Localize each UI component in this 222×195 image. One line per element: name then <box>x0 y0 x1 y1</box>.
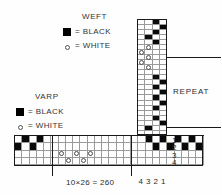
grid-cell[interactable] <box>73 136 80 143</box>
grid-cell[interactable] <box>153 158 160 165</box>
grid-cell[interactable] <box>102 143 109 150</box>
grid-cell[interactable] <box>22 158 29 165</box>
grid-cell[interactable] <box>124 143 131 150</box>
grid-cell[interactable] <box>59 136 66 143</box>
grid-cell[interactable] <box>22 136 29 143</box>
grid-cell[interactable] <box>88 143 95 150</box>
grid-cell[interactable] <box>22 143 29 150</box>
grid-cell[interactable] <box>153 143 160 150</box>
grid-cell[interactable] <box>160 143 167 150</box>
warp-legend-black-label: = BLACK <box>28 107 64 116</box>
grid-cell[interactable] <box>146 158 153 165</box>
grid-cell[interactable] <box>73 151 80 158</box>
grid-cell[interactable] <box>66 151 73 158</box>
grid-cell[interactable] <box>117 136 124 143</box>
grid-cell[interactable] <box>15 136 22 143</box>
grid-cell[interactable] <box>153 136 160 143</box>
weaving-draft-diagram: WEFT = BLACK = WHITE VARP = BLACK = WHIT… <box>0 0 222 195</box>
grid-cell[interactable] <box>66 143 73 150</box>
grid-cell[interactable] <box>146 151 153 158</box>
grid-cell[interactable] <box>44 136 51 143</box>
grid-cell[interactable] <box>153 151 160 158</box>
grid-cell[interactable] <box>88 151 95 158</box>
grid-cell[interactable] <box>95 151 102 158</box>
grid-cell[interactable] <box>102 151 109 158</box>
grid-cell[interactable] <box>59 143 66 150</box>
grid-cell[interactable] <box>117 151 124 158</box>
grid-cell[interactable] <box>59 151 66 158</box>
grid-cell[interactable] <box>80 151 87 158</box>
grid-cell[interactable] <box>80 136 87 143</box>
grid-cell[interactable] <box>109 151 116 158</box>
grid-cell[interactable] <box>66 158 73 165</box>
grid-cell[interactable] <box>124 136 131 143</box>
grid-cell[interactable] <box>30 158 37 165</box>
weft-legend-row-white: = WHITE <box>63 41 110 50</box>
treadling-grid[interactable] <box>137 19 167 136</box>
grid-cell[interactable] <box>189 136 196 143</box>
grid-cell[interactable] <box>44 143 51 150</box>
grid-cell[interactable] <box>109 143 116 150</box>
grid-cell[interactable] <box>131 136 138 143</box>
grid-cell[interactable] <box>138 158 145 165</box>
grid-cell[interactable] <box>30 136 37 143</box>
grid-cell[interactable] <box>22 151 29 158</box>
grid-cell[interactable] <box>80 158 87 165</box>
grid-cell[interactable] <box>15 158 22 165</box>
grid-cell[interactable] <box>59 158 66 165</box>
grid-cell[interactable] <box>160 136 167 143</box>
grid-cell[interactable] <box>138 143 145 150</box>
grid-cell[interactable] <box>80 143 87 150</box>
grid-cell[interactable] <box>117 143 124 150</box>
grid-cell[interactable] <box>146 136 153 143</box>
grid-cell[interactable] <box>196 151 203 158</box>
treadle-number: 2 <box>152 177 160 186</box>
grid-cell[interactable] <box>182 143 189 150</box>
white-circle-icon <box>63 42 71 50</box>
grid-cell[interactable] <box>131 158 138 165</box>
grid-cell[interactable] <box>66 136 73 143</box>
grid-cell[interactable] <box>124 158 131 165</box>
grid-cell[interactable] <box>138 151 145 158</box>
grid-cell[interactable] <box>37 143 44 150</box>
grid-cell[interactable] <box>37 158 44 165</box>
grid-cell[interactable] <box>189 143 196 150</box>
grid-cell[interactable] <box>160 158 167 165</box>
grid-cell[interactable] <box>102 158 109 165</box>
grid-cell[interactable] <box>138 136 145 143</box>
grid-cell[interactable] <box>146 143 153 150</box>
grid-cell[interactable] <box>15 143 22 150</box>
grid-cell[interactable] <box>44 151 51 158</box>
weft-legend-row-black: = BLACK <box>63 27 111 36</box>
grid-cell[interactable] <box>102 136 109 143</box>
grid-cell[interactable] <box>182 151 189 158</box>
grid-cell[interactable] <box>95 136 102 143</box>
grid-cell[interactable] <box>196 136 203 143</box>
grid-cell[interactable] <box>109 158 116 165</box>
grid-cell[interactable] <box>30 143 37 150</box>
grid-cell[interactable] <box>88 158 95 165</box>
grid-cell[interactable] <box>88 136 95 143</box>
grid-cell[interactable] <box>95 143 102 150</box>
grid-cell[interactable] <box>189 151 196 158</box>
grid-cell[interactable] <box>109 136 116 143</box>
grid-cell[interactable] <box>182 136 189 143</box>
grid-cell[interactable] <box>37 151 44 158</box>
grid-cell[interactable] <box>196 158 203 165</box>
grid-cell[interactable] <box>189 158 196 165</box>
grid-cell[interactable] <box>124 151 131 158</box>
grid-cell[interactable] <box>30 151 37 158</box>
grid-cell[interactable] <box>182 158 189 165</box>
grid-cell[interactable] <box>131 151 138 158</box>
grid-cell[interactable] <box>160 151 167 158</box>
grid-cell[interactable] <box>196 143 203 150</box>
grid-cell[interactable] <box>73 158 80 165</box>
grid-cell[interactable] <box>117 158 124 165</box>
grid-cell[interactable] <box>73 143 80 150</box>
grid-cell[interactable] <box>15 151 22 158</box>
grid-cell[interactable] <box>95 158 102 165</box>
threading-span-left-tick <box>52 136 53 176</box>
grid-cell[interactable] <box>131 143 138 150</box>
grid-cell[interactable] <box>37 136 44 143</box>
grid-cell[interactable] <box>44 158 51 165</box>
